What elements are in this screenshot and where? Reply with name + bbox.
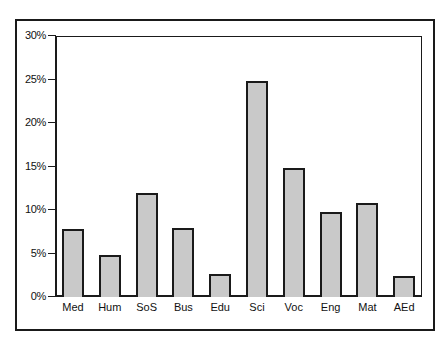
y-tick-label: 5% xyxy=(31,248,46,259)
y-tick xyxy=(48,296,56,297)
bar-edu xyxy=(209,274,231,297)
y-tick xyxy=(48,79,56,80)
y-tick-label: 10% xyxy=(25,204,46,215)
y-tick-label: 20% xyxy=(25,117,46,128)
bar-sci xyxy=(246,81,268,297)
bar-sos xyxy=(136,193,158,297)
bar-voc xyxy=(283,168,305,297)
x-tick-label: Voc xyxy=(274,301,314,313)
bar-med xyxy=(62,229,84,297)
y-tick xyxy=(48,166,56,167)
x-tick-label: Mat xyxy=(347,301,387,313)
bar-hum xyxy=(99,255,121,297)
y-tick xyxy=(48,122,56,123)
y-tick xyxy=(48,209,56,210)
y-tick xyxy=(48,253,56,254)
y-tick-label: 0% xyxy=(31,291,46,302)
x-tick-label: Med xyxy=(53,301,93,313)
bar-eng xyxy=(320,212,342,297)
x-tick-label: Hum xyxy=(90,301,130,313)
x-tick-label: SoS xyxy=(127,301,167,313)
y-tick-label: 15% xyxy=(25,161,46,172)
y-tick-label: 30% xyxy=(25,30,46,41)
y-tick xyxy=(48,35,56,36)
y-tick-label: 25% xyxy=(25,74,46,85)
x-tick-label: AEd xyxy=(384,301,424,313)
x-tick-label: Sci xyxy=(237,301,277,313)
x-tick-label: Bus xyxy=(163,301,203,313)
x-tick-label: Edu xyxy=(200,301,240,313)
bar-mat xyxy=(356,203,378,297)
bar-bus xyxy=(172,228,194,297)
x-tick-label: Eng xyxy=(311,301,351,313)
bar-aed xyxy=(393,276,415,297)
